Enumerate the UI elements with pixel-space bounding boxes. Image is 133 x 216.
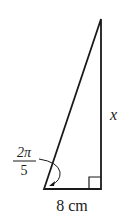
arrowhead-icon — [49, 181, 55, 186]
angle-numerator: 2π — [17, 145, 32, 160]
right-angle-marker — [89, 177, 101, 189]
triangle-diagram: x 8 cm 2π 5 — [0, 0, 133, 216]
base-label: 8 cm — [56, 197, 88, 214]
side-label-x: x — [109, 106, 117, 123]
angle-denominator: 5 — [21, 163, 28, 178]
